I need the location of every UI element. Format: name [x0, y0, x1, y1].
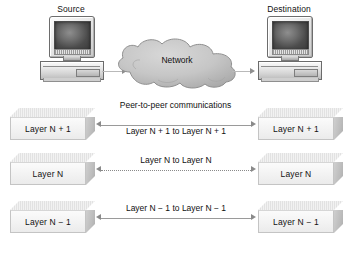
monitor-bezel [49, 16, 95, 58]
source-label: Source [40, 4, 102, 14]
monitor-screen [272, 21, 309, 51]
monitor-screen [54, 21, 91, 51]
layer-label: Layer N [33, 169, 64, 179]
diagram-canvas: Source Destination [0, 0, 353, 253]
peer-link-label-1: Layer N to Layer N [101, 155, 251, 165]
layer-label: Layer N + 1 [25, 124, 71, 134]
layer-box-right-2: Layer N − 1 [258, 201, 343, 233]
slab-side-face [334, 162, 343, 185]
base-foot [261, 78, 319, 82]
slab-front-face: Layer N [258, 162, 334, 185]
base-foot [43, 78, 101, 82]
base-seam [43, 66, 100, 67]
slab-side-face [86, 117, 95, 140]
slab-front-face: Layer N [10, 162, 86, 185]
monitor-vent [54, 49, 91, 55]
peer-arrowhead-right-2 [251, 214, 256, 220]
peer-link-line-1 [101, 170, 251, 171]
base-seam [261, 66, 318, 67]
slab-top-face [10, 108, 95, 117]
network-to-destination-arrowhead [250, 68, 255, 74]
layer-box-left-2: Layer N − 1 [10, 201, 95, 233]
slab-top-face [258, 201, 343, 210]
slab-top-face [10, 153, 95, 162]
slab-side-face [86, 162, 95, 185]
layer-label: Layer N − 1 [273, 217, 319, 227]
destination-label: Destination [251, 4, 327, 14]
layer-label: Layer N + 1 [273, 124, 319, 134]
slab-top-face [10, 201, 95, 210]
source-computer-icon [40, 16, 102, 88]
peer-arrowhead-right-0 [251, 121, 256, 127]
network-cloud-icon: Network [112, 38, 242, 90]
network-label: Network [112, 55, 242, 65]
slab-top-face [258, 153, 343, 162]
slab-front-face: Layer N + 1 [258, 117, 334, 140]
peer-link-line-2 [101, 218, 251, 219]
peer-to-peer-title: Peer-to-peer communications [88, 100, 263, 110]
layer-label: Layer N [281, 169, 312, 179]
slab-side-face [334, 210, 343, 233]
peer-arrowhead-right-1 [251, 166, 256, 172]
peer-link-label-0: Layer N + 1 to Layer N + 1 [101, 126, 251, 136]
peer-link-label-2: Layer N − 1 to Layer N − 1 [101, 203, 251, 213]
layer-box-right-0: Layer N + 1 [258, 108, 343, 140]
slab-top-face [258, 108, 343, 117]
drive-slot [76, 69, 100, 77]
slab-front-face: Layer N + 1 [10, 117, 86, 140]
slab-front-face: Layer N − 1 [10, 210, 86, 233]
layer-label: Layer N − 1 [25, 217, 71, 227]
layer-box-right-1: Layer N [258, 153, 343, 185]
layer-box-left-0: Layer N + 1 [10, 108, 95, 140]
monitor-vent [272, 49, 309, 55]
slab-side-face [86, 210, 95, 233]
drive-slot [294, 69, 318, 77]
slab-side-face [334, 117, 343, 140]
layer-box-left-1: Layer N [10, 153, 95, 185]
slab-front-face: Layer N − 1 [258, 210, 334, 233]
destination-computer-icon [258, 16, 320, 88]
monitor-bezel [267, 16, 313, 58]
